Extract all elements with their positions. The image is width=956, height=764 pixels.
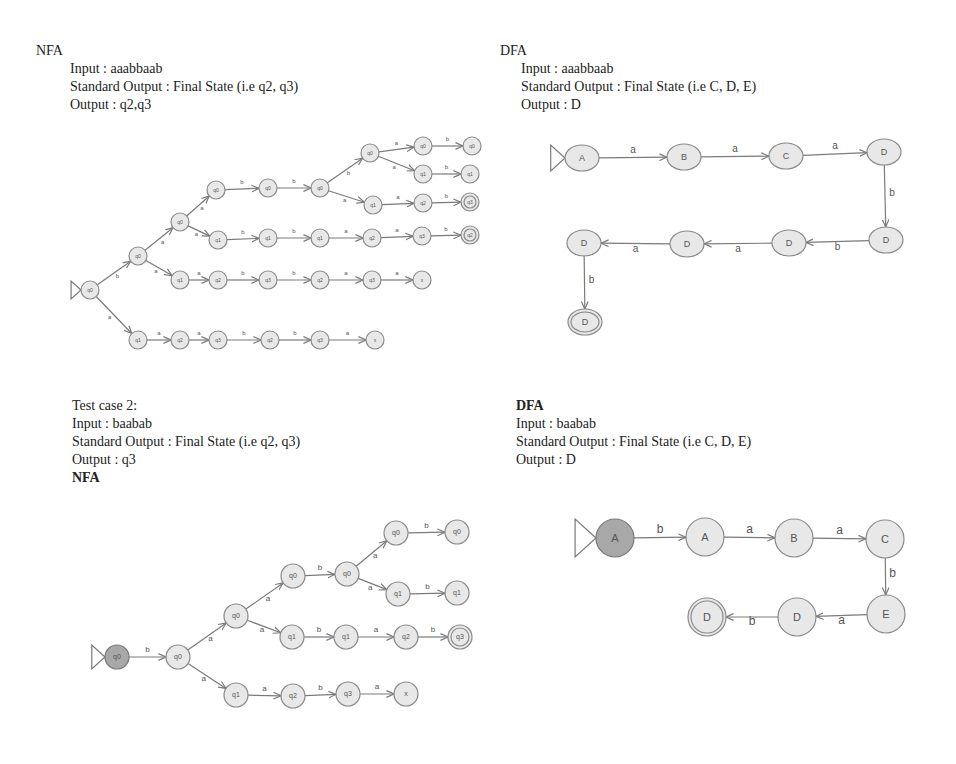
state-label: D [582, 317, 589, 327]
state-label: q3 [265, 277, 271, 283]
state-label: q0 [177, 219, 183, 225]
state-label: q0 [343, 570, 351, 578]
state-label: q1 [317, 235, 323, 241]
state-label: q1 [467, 171, 473, 177]
transition-edge [431, 235, 461, 236]
state-label: D [703, 611, 711, 623]
transition-label: a [344, 228, 348, 234]
state-label: q0 [289, 572, 297, 580]
start-state-marker-icon [575, 519, 596, 557]
transition-label: b [889, 566, 896, 580]
transition-edge [803, 153, 867, 156]
transition-edge [381, 236, 413, 237]
transition-label: a [201, 674, 206, 683]
transition-edge [305, 694, 336, 695]
nfa-diagram-test-case-1: baabbbababaababbaabaabbaaaaabbaq0q0q0q0q… [71, 136, 481, 349]
transition-label: a [343, 197, 347, 203]
state-label: C [881, 533, 889, 545]
state-label: q1 [342, 633, 350, 641]
transition-label: a [395, 140, 399, 146]
transition-label: a [200, 205, 204, 211]
automata-diagrams: baabbbababaababbaabaabbaaaaabbaq0q0q0q0q… [0, 0, 956, 764]
state-label: q1 [215, 237, 221, 243]
state-label: q3 [344, 690, 352, 698]
transition-edge [379, 147, 414, 152]
state-label: q3 [456, 633, 464, 641]
state-label: D [684, 239, 691, 249]
state-label: q2 [177, 337, 183, 343]
state-label: q3 [215, 337, 221, 343]
transition-label: b [116, 273, 120, 279]
transition-label: b [317, 625, 322, 634]
transition-label: b [242, 330, 246, 336]
transition-edge [408, 532, 445, 533]
transition-label: a [395, 227, 399, 233]
state-label: x [404, 690, 408, 697]
transition-edge [225, 188, 259, 189]
transition-label: b [240, 179, 244, 185]
transition-label: b [241, 270, 245, 276]
state-label: D [883, 235, 890, 245]
state-label: q0 [135, 253, 141, 259]
transition-edge [329, 191, 365, 203]
transition-edge [187, 196, 210, 216]
transition-label: b [145, 645, 150, 654]
transition-label: a [832, 140, 838, 151]
transition-label: a [630, 144, 636, 155]
transition-label: b [445, 193, 449, 199]
state-label: D [881, 147, 888, 157]
state-label: q3 [317, 337, 323, 343]
transition-label: a [197, 330, 201, 336]
transition-label: a [195, 231, 199, 237]
state-label: q1 [288, 633, 296, 641]
transition-label: b [444, 226, 448, 232]
transition-edge [599, 157, 667, 158]
transition-label: a [266, 594, 271, 603]
state-label: A [579, 153, 585, 163]
transition-label: b [292, 178, 296, 184]
transition-edge [884, 165, 885, 227]
transition-label: a [197, 270, 201, 276]
transition-edge [701, 156, 769, 157]
transition-label: a [108, 314, 112, 320]
transition-edge [378, 156, 414, 170]
transition-edge [96, 296, 132, 333]
state-label: q3 [419, 233, 425, 239]
transition-edge [382, 203, 414, 204]
transition-label: a [746, 522, 753, 536]
transition-label: b [293, 330, 297, 336]
transition-label: b [446, 136, 450, 142]
transition-label: a [373, 551, 378, 560]
transition-edge [97, 261, 130, 285]
transition-label: b [657, 522, 664, 536]
state-label: q2 [420, 200, 426, 206]
transition-label: b [425, 582, 430, 591]
state-label: q1 [265, 235, 271, 241]
transition-edge [246, 583, 283, 609]
transition-edge [188, 664, 226, 689]
state-label: q1 [135, 337, 141, 343]
transition-label: b [318, 683, 323, 692]
transition-label: b [835, 241, 841, 252]
transition-label: a [368, 583, 373, 592]
state-label: D [786, 238, 793, 248]
transition-label: b [292, 228, 296, 234]
state-label: q0 [392, 529, 400, 537]
transition-edge [356, 541, 387, 567]
transition-label: b [889, 187, 895, 198]
transition-label: a [260, 625, 265, 634]
state-label: q0 [453, 528, 461, 536]
transition-label: b [749, 614, 756, 628]
state-label: q3 [467, 199, 473, 205]
transition-label: a [344, 270, 348, 276]
transition-edge [634, 537, 686, 538]
state-label: q1 [370, 202, 376, 208]
transition-edge [188, 226, 210, 236]
start-state-marker-icon [551, 145, 565, 171]
transition-edge [188, 623, 226, 650]
state-label: q1 [453, 589, 461, 597]
transition-label: a [735, 243, 741, 254]
transition-edge [584, 256, 585, 309]
state-label: q2 [402, 633, 410, 641]
start-state-marker-icon [71, 281, 81, 299]
